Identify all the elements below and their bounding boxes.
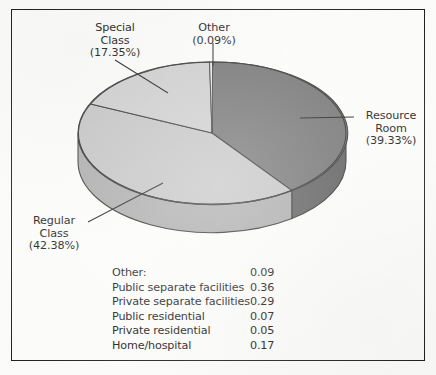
label-regular-class: Regular Class (42.38%) <box>18 215 90 253</box>
breakdown-row-1-value: 0.29 <box>250 295 274 310</box>
breakdown-row-2-value: 0.07 <box>250 310 274 325</box>
breakdown-row-4-label: Home/hospital <box>112 339 250 354</box>
breakdown-row-2-label: Public residential <box>112 310 250 325</box>
label-resource-room-line3: (39.33%) <box>355 135 427 148</box>
label-regular-class-line1: Regular <box>18 215 90 228</box>
table-row: Home/hospital 0.17 <box>112 339 274 354</box>
breakdown-table: Other: 0.09 Public separate facilities 0… <box>112 266 274 354</box>
breakdown-header-label: Other: <box>112 266 250 281</box>
table-row: Private residential 0.05 <box>112 324 274 339</box>
breakdown-row-0-label: Public separate facilities <box>112 281 250 296</box>
label-other-line1: Other <box>174 22 254 35</box>
label-special-class: Special Class (17.35%) <box>62 22 168 60</box>
label-regular-class-line3: (42.38%) <box>18 240 90 253</box>
label-resource-room-line1: Resource <box>355 110 427 123</box>
label-other: Other (0.09%) <box>174 22 254 47</box>
label-resource-room: Resource Room (39.33%) <box>355 110 427 148</box>
breakdown-header-value: 0.09 <box>250 266 274 281</box>
label-special-class-line1: Special <box>62 22 168 35</box>
label-special-class-line3: (17.35%) <box>62 47 168 60</box>
breakdown-row-1-label: Private separate facilities <box>112 295 250 310</box>
other-breakdown-table: Other: 0.09 Public separate facilities 0… <box>112 266 274 354</box>
breakdown-row-0-value: 0.36 <box>250 281 274 296</box>
table-row: Public separate facilities 0.36 <box>112 281 274 296</box>
table-row: Private separate facilities 0.29 <box>112 295 274 310</box>
breakdown-row-3-label: Private residential <box>112 324 250 339</box>
pie-chart-figure: Special Class (17.35%) Other (0.09%) Res… <box>0 0 436 375</box>
breakdown-row-4-value: 0.17 <box>250 339 274 354</box>
breakdown-row-3-value: 0.05 <box>250 324 274 339</box>
table-row: Public residential 0.07 <box>112 310 274 325</box>
label-other-line2: (0.09%) <box>174 35 254 48</box>
table-row: Other: 0.09 <box>112 266 274 281</box>
